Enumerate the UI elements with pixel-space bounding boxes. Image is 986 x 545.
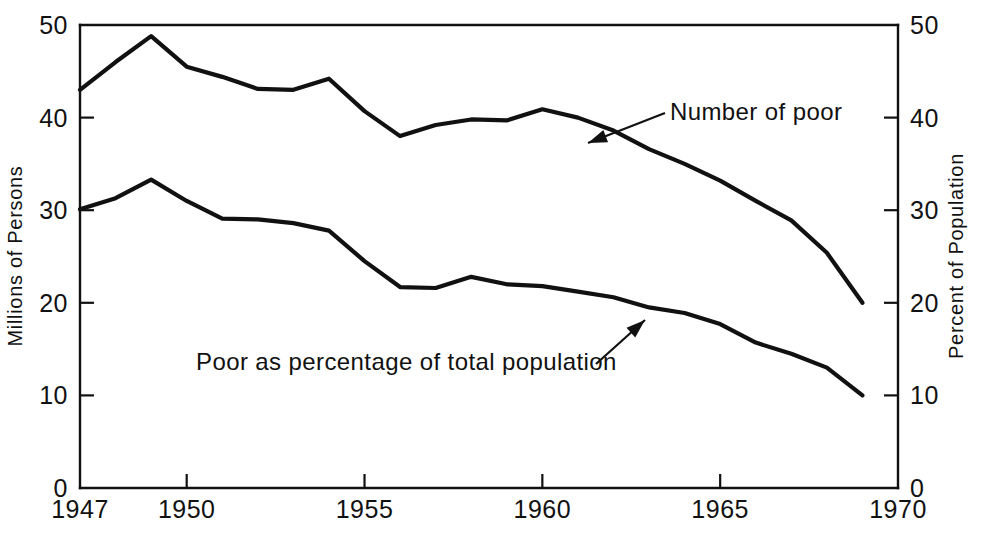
y-tick-label-left: 10 xyxy=(39,381,68,409)
y-tick-label-right: 10 xyxy=(910,381,939,409)
annotation-label-poor-as-percentage: Poor as percentage of total population xyxy=(196,348,617,375)
x-tick-label: 1960 xyxy=(514,495,572,523)
x-tick-label: 1965 xyxy=(691,495,749,523)
x-tick-label: 1947 xyxy=(51,495,109,523)
y-tick-label-right: 20 xyxy=(910,289,939,317)
line-chart: 01020304050 01020304050 1947195019551960… xyxy=(0,0,986,545)
y-axis-left-title: Millions of Persons xyxy=(4,165,26,346)
y-tick-label-right: 40 xyxy=(910,104,939,132)
annotation-arrowhead-number-of-poor xyxy=(588,130,608,143)
y-tick-label-right: 50 xyxy=(910,11,939,39)
x-axis-ticks: 194719501955196019651970 xyxy=(51,474,927,523)
series-line-number-of-poor xyxy=(80,36,862,303)
y-axis-right-ticks: 01020304050 xyxy=(884,11,939,502)
annotation-label-number-of-poor: Number of poor xyxy=(670,98,842,125)
y-tick-label-right: 30 xyxy=(910,196,939,224)
data-series-group xyxy=(80,36,862,395)
y-tick-label-left: 50 xyxy=(39,11,68,39)
plot-frame xyxy=(80,25,898,488)
x-tick-label: 1950 xyxy=(158,495,216,523)
y-tick-label-left: 30 xyxy=(39,196,68,224)
y-tick-label-left: 40 xyxy=(39,104,68,132)
y-axis-right-title: Percent of Population xyxy=(945,153,967,359)
y-tick-label-left: 20 xyxy=(39,289,68,317)
chart-container: 01020304050 01020304050 1947195019551960… xyxy=(0,0,986,545)
x-tick-label: 1955 xyxy=(336,495,394,523)
annotation-group: Number of poorPoor as percentage of tota… xyxy=(196,98,842,375)
x-tick-label: 1970 xyxy=(869,495,927,523)
